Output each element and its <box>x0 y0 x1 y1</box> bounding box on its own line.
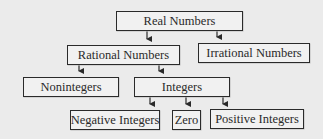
node-label: Nonintegers <box>40 80 101 95</box>
node-nonintegers: Nonintegers <box>23 77 119 97</box>
node-zero: Zero <box>172 110 201 130</box>
node-rational-numbers: Rational Numbers <box>67 45 180 65</box>
node-integers: Integers <box>134 77 230 97</box>
node-label: Irrational Numbers <box>206 46 301 61</box>
node-label: Zero <box>175 113 199 128</box>
node-label: Integers <box>162 80 202 95</box>
node-positive-integers: Positive Integers <box>210 109 304 129</box>
node-label: Negative Integers <box>71 113 160 128</box>
node-label: Rational Numbers <box>78 48 169 63</box>
node-label: Positive Integers <box>215 112 299 127</box>
node-label: Real Numbers <box>144 14 216 29</box>
node-negative-integers: Negative Integers <box>70 110 160 130</box>
node-real-numbers: Real Numbers <box>116 11 243 31</box>
node-irrational-numbers: Irrational Numbers <box>198 43 310 63</box>
